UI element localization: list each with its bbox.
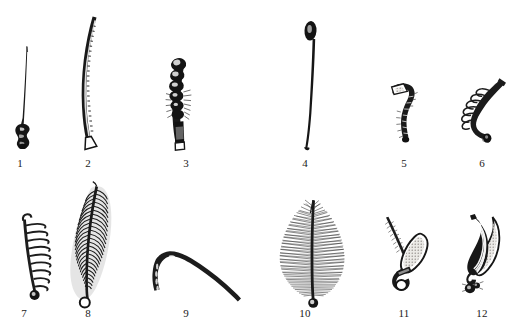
specimen-label-10: 10: [290, 307, 320, 319]
specimen-label-3: 3: [171, 157, 201, 169]
specimen-label-12: 12: [467, 307, 497, 319]
specimen-label-7: 7: [9, 307, 39, 319]
specimen-label-8: 8: [73, 307, 103, 319]
specimen-label-6: 6: [467, 157, 497, 169]
specimen-label-4: 4: [290, 157, 320, 169]
specimen-label-1: 1: [5, 157, 35, 169]
specimen-label-2: 2: [73, 157, 103, 169]
specimen-label-5: 5: [389, 157, 419, 169]
specimen-label-11: 11: [389, 307, 419, 319]
specimen-label-9: 9: [171, 307, 201, 319]
illustration-plate: 1 2 3 4 5 6 7 8 9 10 11 12: [0, 0, 517, 331]
